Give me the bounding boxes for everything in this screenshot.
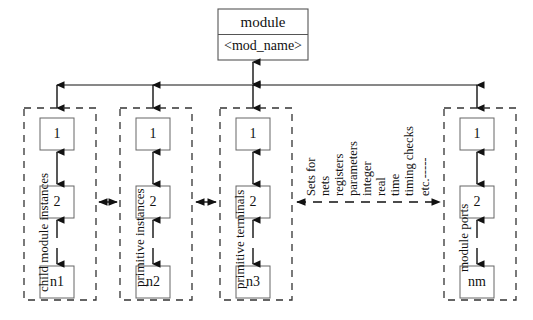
set-label-integer: integer <box>360 161 375 196</box>
cell-value: 2 <box>460 194 494 210</box>
set-label-timing-checks: timing checks <box>402 126 417 196</box>
cell-value: n3 <box>236 274 270 290</box>
distribution-bus <box>57 85 477 108</box>
cell-value: 1 <box>460 126 494 142</box>
module-name: <mod_name> <box>218 38 308 54</box>
set-label-parameters: parameters <box>346 141 361 196</box>
set-label-time: time <box>388 174 403 196</box>
set-label-real: real <box>374 177 389 196</box>
cell-value: n2 <box>136 274 170 290</box>
set-label-nets: nets <box>318 176 333 196</box>
group-label-module-ports: module ports <box>456 204 472 272</box>
cell-value: 1 <box>236 126 270 142</box>
cell-value: 2 <box>40 194 74 210</box>
cell-value: 2 <box>136 194 170 210</box>
module-title: module <box>218 14 308 31</box>
set-label-etc: etc.----- <box>418 157 433 196</box>
cell-value: n1 <box>40 274 74 290</box>
cell-value: 1 <box>40 126 74 142</box>
cell-value: 2 <box>236 194 270 210</box>
cell-value: nm <box>460 274 494 290</box>
diagram-canvas: module <mod_name> child module instances… <box>0 0 533 320</box>
set-label-sets-for: Sets for <box>304 157 319 196</box>
set-label-registers: registers <box>332 154 347 196</box>
cell-value: 1 <box>136 126 170 142</box>
